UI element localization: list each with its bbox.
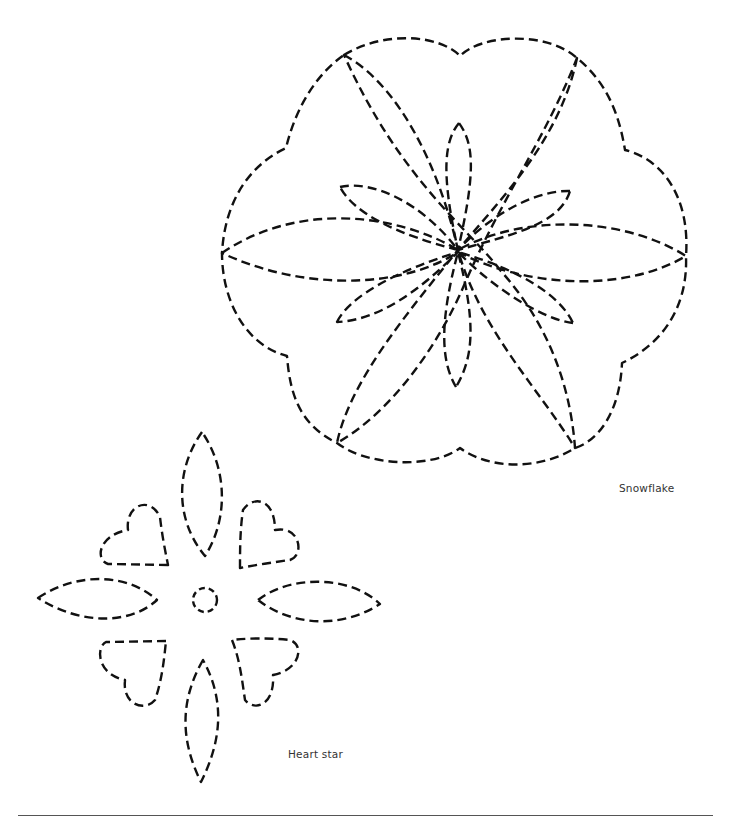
heart-star-heart-upper-right [240,501,298,568]
heart-star-heart-lower-right [232,639,298,706]
snowflake-scalloped-border [222,38,686,464]
snowflake-small-petal-top [446,123,470,250]
snowflake-icon [222,38,686,464]
heart-star-petal-bottom [185,660,218,782]
heart-star-icon [38,432,380,782]
pattern-artwork [0,0,730,825]
heart-star-petal-top [182,432,222,556]
snowflake-small-petal-bottom [444,252,470,387]
heart-star-petal-left [38,579,157,618]
snowflake-caption: Snowflake [619,482,674,494]
heart-star-heart-upper-left [101,505,168,565]
heart-star-heart-lower-left [100,641,166,706]
footer-rule [18,815,713,816]
heart-star-center-circle [193,588,217,612]
heart-star-petal-right [258,582,380,622]
pattern-page: Snowflake Heart star [0,0,730,825]
heart-star-caption: Heart star [288,748,343,760]
